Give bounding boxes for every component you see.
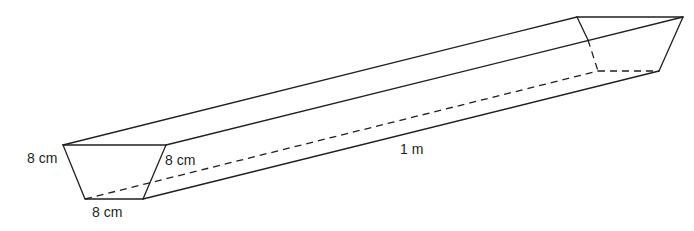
front-trapezoid-face bbox=[63, 145, 166, 199]
prism-diagram bbox=[0, 0, 694, 231]
back-left-side-visible bbox=[577, 17, 588, 40]
bottom-left-hidden bbox=[85, 71, 598, 199]
back-right-side-edge bbox=[659, 17, 683, 71]
bottom-label: 8 cm bbox=[92, 204, 122, 220]
bottom-right-edge bbox=[143, 71, 659, 199]
left-side-label: 8 cm bbox=[27, 150, 57, 166]
length-label: 1 m bbox=[400, 141, 423, 157]
right-side-label: 8 cm bbox=[165, 152, 195, 168]
top-left-edge bbox=[63, 17, 577, 145]
back-left-side-hidden bbox=[588, 40, 598, 71]
top-right-edge bbox=[166, 17, 683, 145]
